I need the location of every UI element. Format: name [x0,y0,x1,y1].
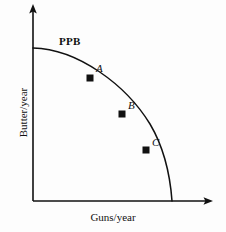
data-point-label-b: B [128,100,135,111]
x-axis-label: Guns/year [0,212,226,223]
ppb-plot-svg [0,0,226,232]
data-point-label-c: C [152,137,159,148]
data-point-marker-a [87,75,94,82]
y-axis-label: Butter/year [18,48,29,178]
data-point-marker-b [119,111,126,118]
ppb-chart-figure: PPB A B C Guns/year Butter/year [0,0,226,232]
data-point-marker-c [143,147,150,154]
data-point-label-a: A [96,63,103,74]
ppb-curve-label: PPB [59,36,81,47]
